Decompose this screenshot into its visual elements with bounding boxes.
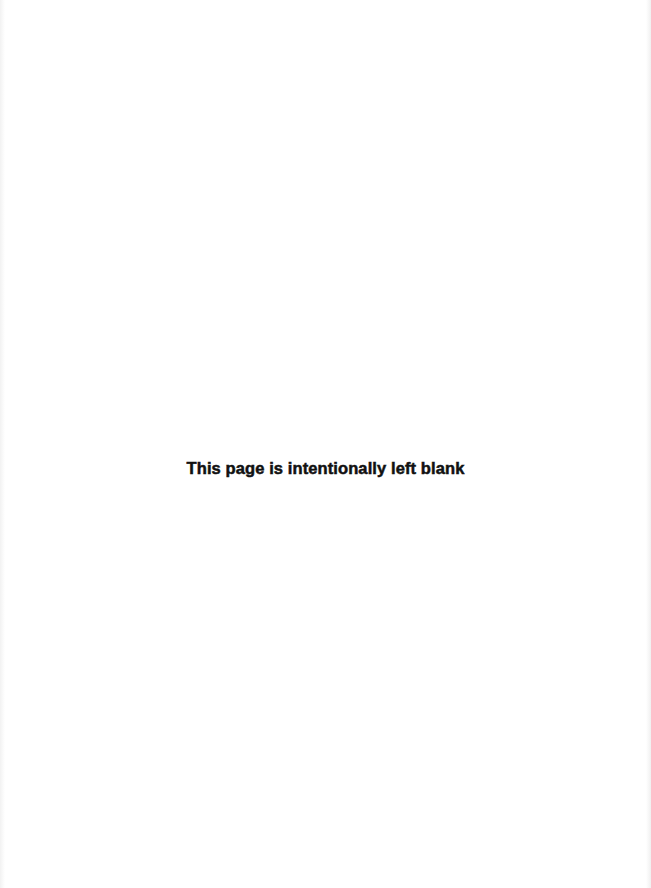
scan-edge-left <box>0 0 5 888</box>
intentionally-blank-notice: This page is intentionally left blank <box>0 457 651 479</box>
scan-edge-right <box>646 0 651 888</box>
blank-page: This page is intentionally left blank <box>0 0 651 888</box>
